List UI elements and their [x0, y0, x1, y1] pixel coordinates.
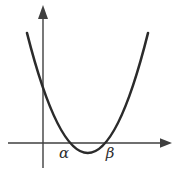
x-axis-arrowhead-icon: [160, 138, 172, 148]
parabola-figure: α β: [0, 0, 179, 176]
beta-label: β: [105, 144, 115, 162]
parabola-curve: [27, 33, 148, 153]
y-axis-arrowhead-icon: [38, 5, 48, 19]
alpha-label: α: [59, 144, 69, 162]
figure-canvas: α β: [0, 0, 179, 176]
